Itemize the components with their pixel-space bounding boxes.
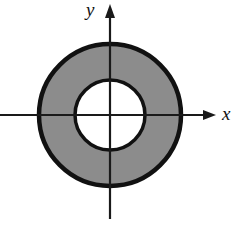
y-axis-label: y (84, 0, 95, 20)
x-axis-arrow-icon (203, 110, 216, 120)
figure-canvas: y x (0, 0, 232, 226)
x-axis-label: x (221, 103, 231, 124)
y-axis-arrow-icon (105, 4, 115, 18)
annulus-figure: y x (0, 0, 232, 226)
